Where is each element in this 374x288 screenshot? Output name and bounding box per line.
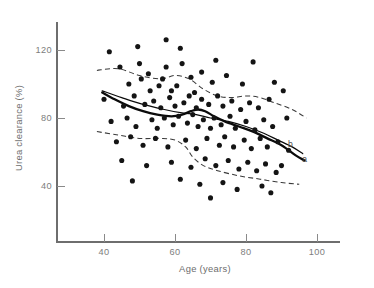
data-point [162,115,167,120]
data-point [192,90,197,95]
data-point [268,190,273,195]
data-point [217,143,222,148]
data-point [151,98,156,103]
scatter-plot-svg: 4080120406080100Age (years)Urea clearanc… [0,0,374,288]
data-point [119,158,124,163]
data-point [183,138,188,143]
data-point [275,139,280,144]
data-point [208,195,213,200]
data-point [178,177,183,182]
data-point [169,160,174,165]
data-point [252,127,257,132]
data-point [176,114,181,119]
data-point [206,102,211,107]
data-point [194,105,199,110]
data-point [149,117,154,122]
data-point [263,161,268,166]
data-point [231,144,236,149]
data-point [188,75,193,80]
data-point [148,88,153,93]
data-point [279,163,284,168]
data-point [208,126,213,131]
data-point [164,37,169,42]
data-point [251,59,256,64]
data-point [204,136,209,141]
data-point [220,104,225,109]
data-point [188,165,193,170]
data-point [142,102,147,107]
data-point [226,158,231,163]
data-point [199,97,204,102]
y-axis-title: Urea clearance (%) [13,85,24,171]
data-point [201,117,206,122]
data-point [132,93,137,98]
data-point [194,146,199,151]
data-point [174,83,179,88]
data-point [236,166,241,171]
data-point [249,146,254,151]
data-point [158,105,163,110]
data-point [169,88,174,93]
y-tick-label-120: 120 [35,45,52,55]
data-point [180,61,185,66]
data-point [160,76,165,81]
data-point [117,64,122,69]
data-point [224,73,229,78]
data-point [181,100,186,105]
data-point [128,134,133,139]
data-point [144,163,149,168]
data-point [272,80,277,85]
x-tick-label-80: 80 [240,247,251,257]
data-point [171,122,176,127]
data-point [178,46,183,51]
data-point [261,117,266,122]
data-point [190,112,195,117]
data-point [235,187,240,192]
x-tick-label-40: 40 [98,247,109,257]
data-point [210,80,215,85]
data-point [213,58,218,63]
data-point [197,182,202,187]
curve-label-a: a [302,154,307,164]
data-point [156,83,161,88]
data-point [172,104,177,109]
data-points-group [101,37,291,200]
data-point [185,121,190,126]
data-point [227,114,232,119]
data-point [125,115,130,120]
data-point [256,105,261,110]
data-point [114,139,119,144]
data-point [245,160,250,165]
data-point [126,81,131,86]
data-point [213,163,218,168]
data-point [137,61,142,66]
data-point [274,170,279,175]
data-point [254,168,259,173]
data-point [146,71,151,76]
data-point [238,107,243,112]
y-tick-label-40: 40 [41,181,52,191]
data-point [258,136,263,141]
data-point [133,124,138,129]
data-point [233,126,238,131]
x-axis-title: Age (years) [179,263,231,274]
data-point [212,115,217,120]
data-point [109,119,114,124]
data-point [243,119,248,124]
data-point [165,144,170,149]
data-point [121,104,126,109]
x-tick-label-100: 100 [309,247,326,257]
data-point [101,97,106,102]
y-tick-label-80: 80 [41,113,52,123]
data-point [196,124,201,129]
data-point [265,144,270,149]
x-tick-label-60: 60 [169,247,180,257]
data-point [215,93,220,98]
data-point [153,136,158,141]
data-point [270,124,275,129]
data-point [135,44,140,49]
data-point [139,76,144,81]
data-point [130,178,135,183]
data-point [222,134,227,139]
data-point [267,97,272,102]
